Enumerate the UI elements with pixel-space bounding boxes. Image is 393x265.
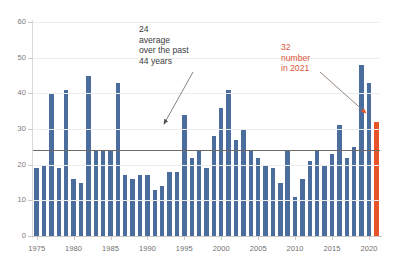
bar-2011 bbox=[300, 179, 304, 236]
average-annotation-text: 24 average over the past 44 years bbox=[139, 24, 189, 66]
y-tick-label: 20 bbox=[4, 161, 26, 169]
bar-1980 bbox=[71, 179, 75, 236]
x-tick-label: 1975 bbox=[28, 244, 45, 253]
x-tick-mark bbox=[221, 236, 222, 240]
bar-2004 bbox=[249, 150, 253, 236]
bar-1986 bbox=[116, 83, 120, 236]
bar-chart: 0102030405060 19751980198519901995200020… bbox=[0, 0, 393, 265]
bar-1979 bbox=[64, 90, 68, 236]
bar-1981 bbox=[79, 183, 83, 237]
bar-1988 bbox=[130, 179, 134, 236]
bar-1993 bbox=[167, 172, 171, 236]
y-tick-mark bbox=[28, 93, 32, 94]
x-tick-mark bbox=[332, 236, 333, 240]
bar-1991 bbox=[153, 190, 157, 236]
y-tick-label: 50 bbox=[4, 54, 26, 62]
bar-2012 bbox=[308, 161, 312, 236]
y-tick-label: 60 bbox=[4, 18, 26, 26]
bar-1975 bbox=[34, 168, 38, 236]
y-tick-mark bbox=[28, 200, 32, 201]
y-tick-mark bbox=[28, 58, 32, 59]
x-tick-mark bbox=[295, 236, 296, 240]
gridline bbox=[33, 165, 380, 166]
bar-1996 bbox=[190, 158, 194, 236]
bar-1989 bbox=[138, 175, 142, 236]
x-tick-mark bbox=[111, 236, 112, 240]
x-tick-mark bbox=[37, 236, 38, 240]
x-tick-label: 2015 bbox=[323, 244, 340, 253]
gridline bbox=[33, 93, 380, 94]
y-tick-label: 30 bbox=[4, 125, 26, 133]
y-tick-label: 40 bbox=[4, 89, 26, 97]
x-axis-line bbox=[32, 236, 382, 237]
x-tick-label: 1980 bbox=[65, 244, 82, 253]
y-tick-mark bbox=[28, 129, 32, 130]
bar-2007 bbox=[271, 168, 275, 236]
average-line bbox=[33, 150, 380, 151]
bar-2020 bbox=[367, 83, 371, 236]
bar-1992 bbox=[160, 186, 164, 236]
gridline bbox=[33, 58, 380, 59]
bar-2003 bbox=[241, 129, 245, 236]
bar-2008 bbox=[278, 183, 282, 237]
y-tick-mark bbox=[28, 165, 32, 166]
x-tick-mark bbox=[147, 236, 148, 240]
gridline bbox=[33, 22, 380, 23]
bar-2015 bbox=[330, 154, 334, 236]
x-tick-label: 2000 bbox=[213, 244, 230, 253]
bar-2016 bbox=[337, 125, 341, 236]
y-tick-mark bbox=[28, 22, 32, 23]
bar-2010 bbox=[293, 197, 297, 236]
bar-1990 bbox=[145, 175, 149, 236]
x-tick-label: 2020 bbox=[360, 244, 377, 253]
bar-1978 bbox=[57, 168, 61, 236]
bar-2000 bbox=[219, 108, 223, 236]
bar-1987 bbox=[123, 175, 127, 236]
bar-2018 bbox=[352, 147, 356, 236]
bar-2009 bbox=[285, 150, 289, 236]
x-tick-label: 2005 bbox=[250, 244, 267, 253]
bar-2021 bbox=[374, 122, 378, 236]
bar-2013 bbox=[315, 150, 319, 236]
bar-1995 bbox=[182, 115, 186, 236]
bar-1985 bbox=[108, 150, 112, 236]
y-tick-label: 10 bbox=[4, 196, 26, 204]
x-tick-label: 1995 bbox=[176, 244, 193, 253]
bar-2002 bbox=[234, 140, 238, 236]
x-tick-mark bbox=[184, 236, 185, 240]
bar-1998 bbox=[204, 168, 208, 236]
bar-1997 bbox=[197, 150, 201, 236]
y-tick-label: 0 bbox=[4, 232, 26, 240]
bar-1984 bbox=[101, 150, 105, 236]
bar-2005 bbox=[256, 158, 260, 236]
x-tick-mark bbox=[74, 236, 75, 240]
bar-1994 bbox=[175, 172, 179, 236]
bar-2017 bbox=[345, 158, 349, 236]
gridline bbox=[33, 129, 380, 130]
x-tick-label: 2010 bbox=[287, 244, 304, 253]
x-tick-mark bbox=[258, 236, 259, 240]
x-tick-label: 1990 bbox=[139, 244, 156, 253]
plot-area bbox=[33, 22, 380, 236]
highlight-annotation-text: 32 number in 2021 bbox=[281, 42, 310, 74]
bar-2001 bbox=[226, 90, 230, 236]
x-tick-label: 1985 bbox=[102, 244, 119, 253]
bar-1983 bbox=[94, 150, 98, 236]
bar-1982 bbox=[86, 76, 90, 237]
x-tick-mark bbox=[369, 236, 370, 240]
gridline bbox=[33, 200, 380, 201]
